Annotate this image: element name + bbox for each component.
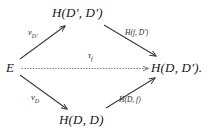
edge-label-v-d-subscript: D bbox=[35, 97, 39, 104]
edge-label-h-d-f: H(D, f) bbox=[119, 96, 141, 104]
node-bottom-hom: H(D, D) bbox=[59, 113, 104, 126]
node-source-E: E bbox=[6, 61, 14, 74]
node-top-hom: H(D', D') bbox=[52, 6, 103, 19]
edge-E-to-bottom bbox=[20, 75, 67, 109]
node-target-hom: H(D, D'). bbox=[151, 61, 202, 74]
edge-label-h-f-dprime: H(f, D') bbox=[125, 29, 148, 37]
commutative-diagram: E H(D', D') H(D, D) H(D, D'). vD' vD H(f… bbox=[0, 0, 210, 133]
edge-label-v-dprime: vD' bbox=[28, 28, 38, 39]
edge-label-v-dprime-subscript: D' bbox=[32, 32, 38, 39]
edge-E-to-top bbox=[20, 26, 65, 59]
edge-label-tau-f: τf bbox=[88, 51, 93, 62]
edge-label-v-d: vD bbox=[31, 93, 39, 104]
edge-label-tau-f-subscript: f bbox=[91, 55, 93, 62]
